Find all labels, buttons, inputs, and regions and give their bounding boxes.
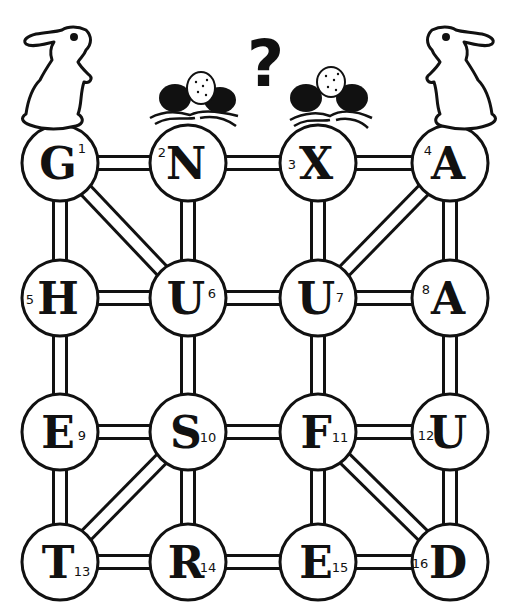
node-15[interactable]: E15 (280, 524, 356, 600)
node-1[interactable]: G1 (22, 125, 98, 201)
node-letter: U (167, 273, 205, 324)
node-10[interactable]: S10 (150, 394, 226, 470)
question-mark: ? (247, 27, 284, 101)
node-2[interactable]: N2 (150, 125, 226, 201)
node-letter: E (299, 537, 333, 588)
node-number: 14 (200, 560, 217, 575)
puzzle-board: G1N2X3A4H5U6U7A8E9S10F11U12T13R14E15D16 … (0, 0, 510, 615)
node-letter: S (170, 407, 202, 458)
node-number: 13 (74, 564, 91, 579)
node-13[interactable]: T13 (22, 524, 98, 600)
node-9[interactable]: E9 (22, 394, 98, 470)
node-letter: F (300, 407, 331, 458)
node-number: 10 (200, 430, 217, 445)
node-number: 7 (336, 290, 344, 305)
node-number: 15 (332, 560, 349, 575)
node-5[interactable]: H5 (22, 260, 98, 336)
node-letter: U (297, 273, 335, 324)
node-number: 4 (424, 143, 432, 158)
node-12[interactable]: U12 (412, 394, 488, 470)
node-number: 8 (422, 282, 430, 297)
node-4[interactable]: A4 (412, 125, 488, 201)
node-number: 9 (78, 428, 86, 443)
node-letter: D (429, 537, 467, 588)
node-letter: A (430, 273, 466, 324)
node-number: 2 (158, 145, 166, 160)
node-6[interactable]: U6 (150, 260, 226, 336)
connections (60, 163, 450, 562)
node-letter: E (41, 407, 75, 458)
node-letter: X (299, 138, 334, 189)
node-letter: A (430, 138, 466, 189)
node-number: 12 (418, 428, 435, 443)
node-letter: G (39, 138, 77, 189)
node-7[interactable]: U7 (280, 260, 356, 336)
node-3[interactable]: X3 (280, 125, 356, 201)
node-number: 3 (288, 157, 296, 172)
node-number: 11 (332, 430, 349, 445)
node-8[interactable]: A8 (412, 260, 488, 336)
nest-with-eggs-icon (150, 72, 238, 126)
node-16[interactable]: D16 (412, 524, 488, 600)
node-letter: T (42, 537, 75, 588)
node-letter: U (429, 407, 467, 458)
node-letter: N (166, 138, 206, 189)
node-number: 5 (26, 292, 34, 307)
node-letter: H (37, 273, 79, 324)
rabbit-right-icon (427, 27, 495, 129)
nest-with-eggs-icon (290, 67, 372, 128)
rabbit-left-icon (23, 27, 91, 129)
node-number: 16 (412, 556, 429, 571)
node-number: 1 (78, 141, 86, 156)
node-11[interactable]: F11 (280, 394, 356, 470)
node-14[interactable]: R14 (150, 524, 226, 600)
node-number: 6 (208, 286, 216, 301)
